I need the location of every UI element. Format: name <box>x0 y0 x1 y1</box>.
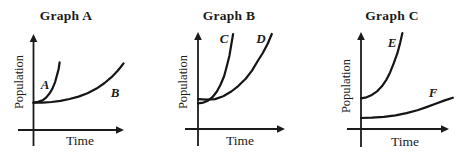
curve-f <box>361 98 453 118</box>
panel-graph-c: Graph C Population Time E F <box>310 0 468 160</box>
panel-title: Graph C <box>365 9 418 23</box>
curve-d-label: D <box>256 32 265 45</box>
x-axis-label: Time <box>226 134 254 148</box>
y-axis-arrow-icon <box>30 34 38 42</box>
panel-title: Graph B <box>203 9 256 23</box>
y-axis-arrow-icon <box>194 32 202 40</box>
panel-title: Graph A <box>40 9 93 23</box>
panel-graph-a: Graph A Population Time A B <box>0 0 156 160</box>
curve-a-label: A <box>41 78 50 91</box>
y-axis-label: Population <box>340 59 353 113</box>
graph-c-plot <box>310 0 468 160</box>
y-axis-arrow-icon <box>357 32 365 40</box>
y-axis-label: Population <box>13 55 26 109</box>
x-axis-arrow-icon <box>441 125 449 133</box>
curve-f-label: F <box>429 86 438 99</box>
y-axis-label: Population <box>177 55 190 109</box>
x-axis-label: Time <box>66 134 94 148</box>
panel-graph-b: Graph B Population Time C D <box>155 0 310 160</box>
curve-c-label: C <box>220 32 229 45</box>
x-axis-label: Time <box>391 135 419 149</box>
curve-e-label: E <box>388 36 397 49</box>
x-axis-arrow-icon <box>277 125 285 133</box>
curve-b-label: B <box>111 86 120 99</box>
population-graphs-figure: Graph A Population Time A B Graph B Popu… <box>0 0 468 160</box>
x-axis-arrow-icon <box>116 126 124 134</box>
